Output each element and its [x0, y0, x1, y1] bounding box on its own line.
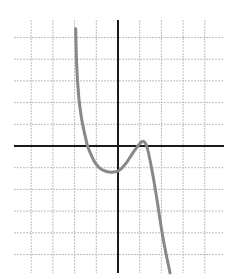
function-curve — [76, 29, 170, 273]
graph-plot — [0, 0, 237, 279]
axes — [14, 20, 224, 273]
